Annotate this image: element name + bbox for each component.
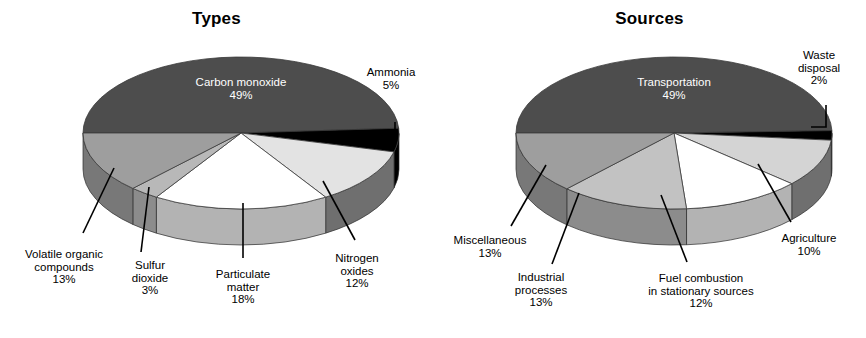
callout-label-waste-disposal: Waste disposal 2%	[779, 49, 859, 87]
callout-label-sulfur-dioxide: Sulfur dioxide 3%	[112, 259, 188, 297]
slice-inner-label-sources: Transportation 49%	[584, 76, 764, 101]
callout-label-miscellaneous: Miscellaneous 13%	[434, 234, 546, 259]
callout-label-industrial-processes: Industrial processes 13%	[493, 271, 589, 309]
callout-label-nitrogen-oxides: Nitrogen oxides 12%	[318, 252, 396, 290]
callout-label-fuel-combustion: Fuel combustion in stationary sources 12…	[626, 272, 776, 310]
callout-label-agriculture: Agriculture 10%	[764, 232, 854, 257]
chart-panel-types: Types Carbon monoxide 49% Ammonia 5%Nitr…	[0, 0, 433, 338]
chart-panel-sources: Sources Transportation 49% Waste disposa…	[433, 0, 866, 338]
callout-label-particulate-matter: Particulate matter 18%	[198, 268, 288, 306]
slice-inner-label-types: Carbon monoxide 49%	[151, 76, 331, 101]
callout-label-volatile-organic-compounds: Volatile organic compounds 13%	[9, 248, 119, 286]
callout-label-ammonia: Ammonia 5%	[352, 66, 430, 91]
